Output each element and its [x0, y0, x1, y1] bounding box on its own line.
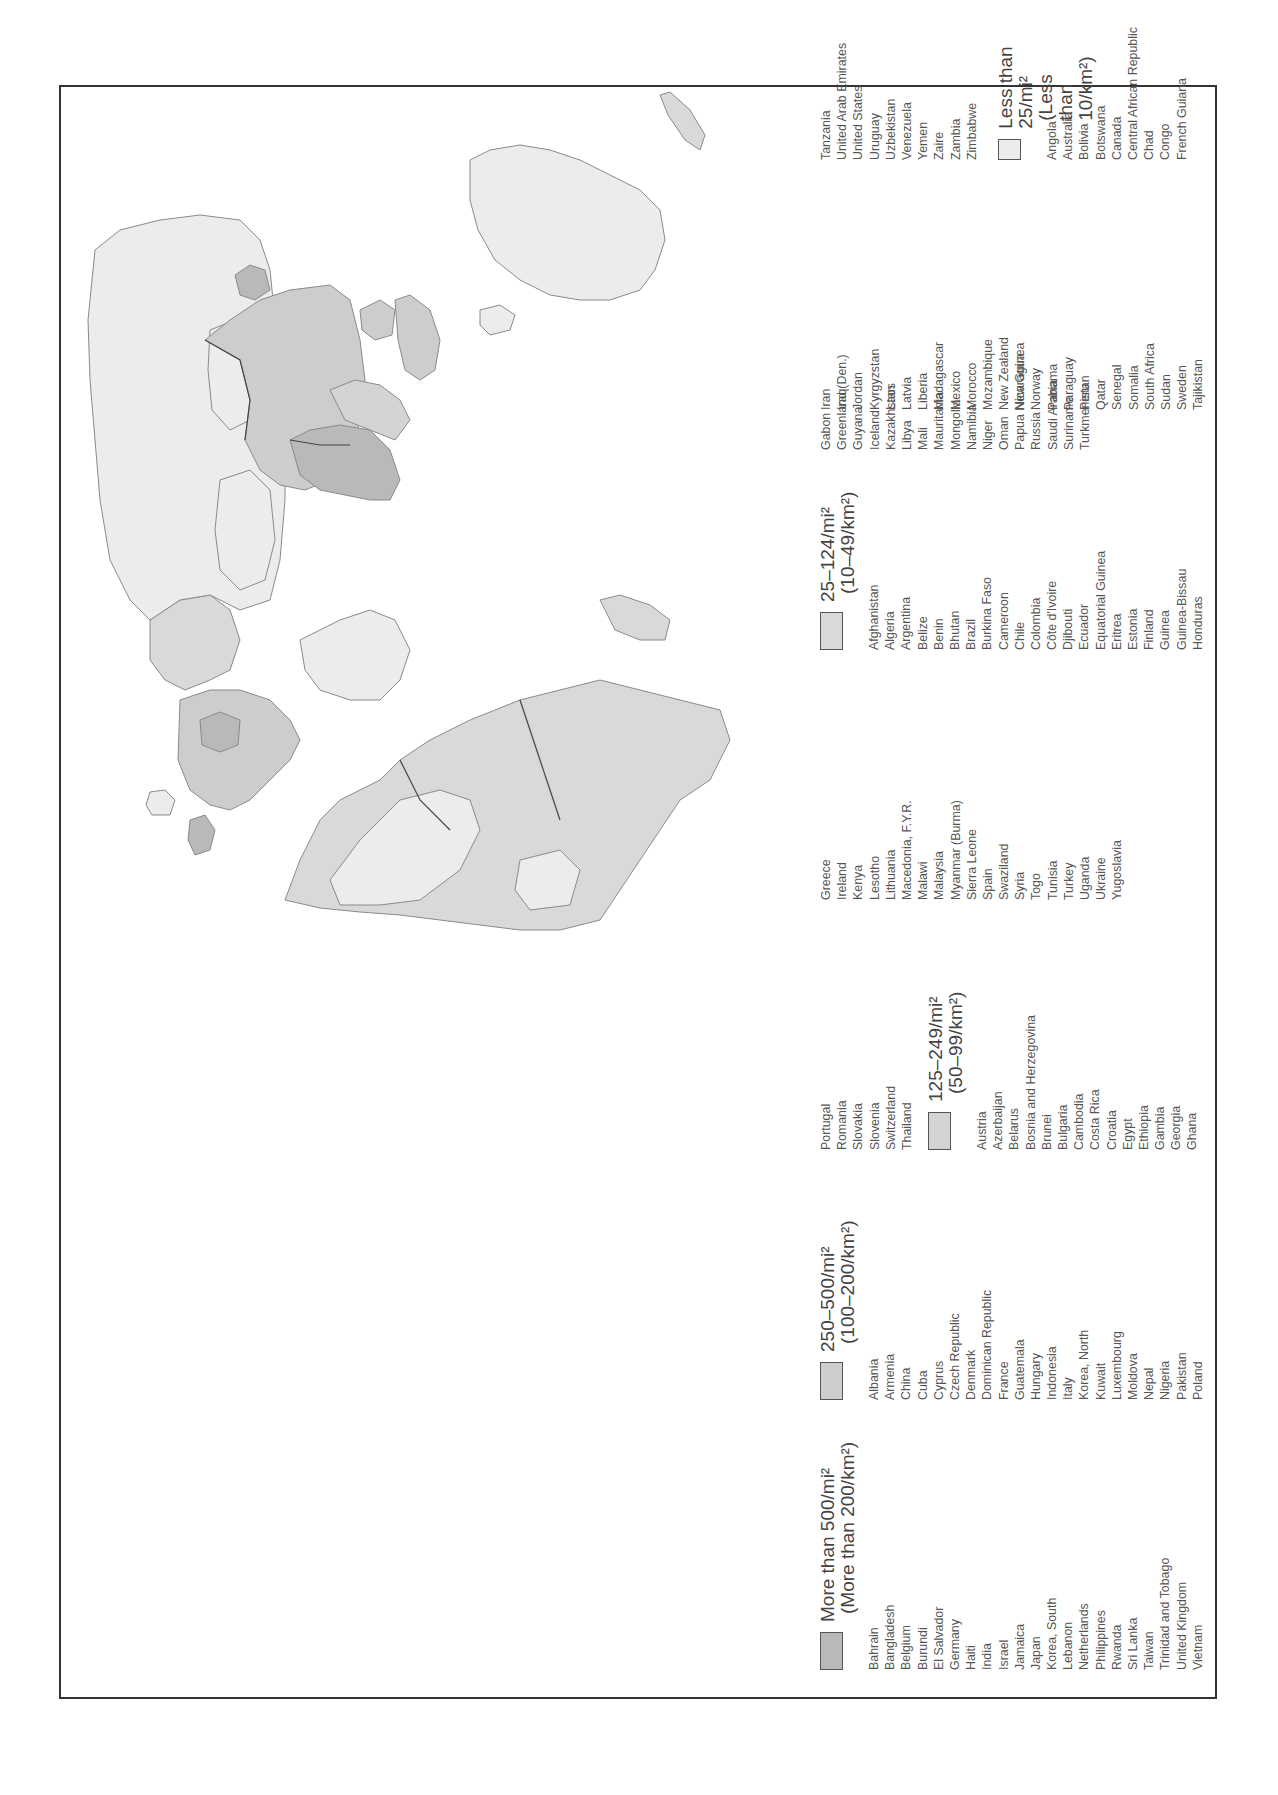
region-germany [200, 712, 240, 752]
region-indonesia [395, 295, 440, 380]
region-uk [188, 815, 215, 855]
region-australia [470, 145, 665, 300]
region-iceland [146, 790, 175, 815]
region-europe [178, 690, 300, 810]
country-list-less-than-25-col2: Gabon Greenland (Den.) Guyana Iceland Ka… [818, 343, 1093, 450]
region-kazakhstan [215, 470, 275, 590]
region-new-zealand [660, 92, 705, 150]
region-borneo [360, 300, 395, 340]
region-papua-new-guinea [480, 305, 515, 335]
legend-less-than-25-continued: Gabon Greenland (Den.) Guyana Iceland Ka… [818, 30, 1208, 530]
region-madagascar [600, 595, 670, 640]
region-arabia [300, 610, 410, 700]
